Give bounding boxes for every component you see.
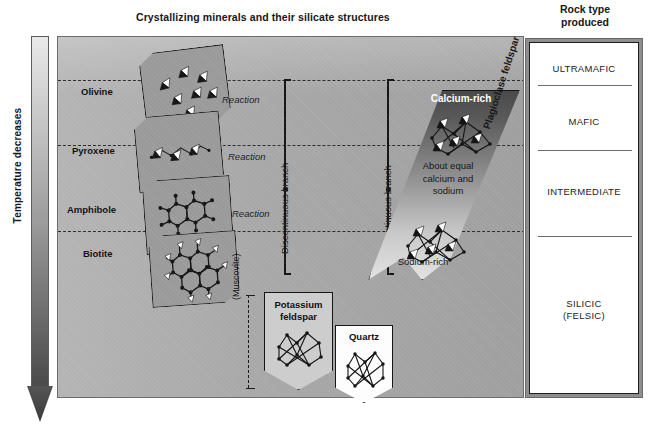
rock-type-heading-line1: Rock type <box>560 3 610 15</box>
mineral-label-muscovite: (Muscovite) <box>231 253 241 300</box>
mineral-label-amphibole: Amphibole <box>67 204 116 215</box>
page-title: Crystallizing minerals and their silicat… <box>136 11 536 23</box>
rock-type-divider-2 <box>538 150 632 151</box>
discontinuous-branch-label: Discontinuous branch <box>279 163 290 254</box>
rock-type-divider-1 <box>538 85 632 86</box>
arrow-down-icon <box>27 386 53 422</box>
rock-type-heading-line2: produced <box>561 16 609 28</box>
plagioclase-zone-equal: About equalcalcium andsodium <box>400 160 496 198</box>
reaction-label-3: Reaction <box>232 208 270 219</box>
silicate-structure-framework-kspar <box>273 325 325 379</box>
temperature-axis <box>27 36 53 422</box>
temperature-boundary-line-1 <box>58 80 524 81</box>
plagioclase-zone-sodium-rich: Sodium-rich <box>375 256 471 267</box>
silicate-structure-framework-sodium <box>400 222 474 278</box>
silicate-structure-sheet <box>149 231 242 309</box>
bracket-cap-bottom-icon <box>246 388 255 389</box>
mineral-label-pyroxene: Pyroxene <box>72 145 115 156</box>
rock-type-intermediate[interactable]: INTERMEDIATE <box>530 186 638 198</box>
silicate-structure-framework-quartz <box>343 348 387 396</box>
mineral-label-potassium-feldspar: Potassiumfeldspar <box>264 299 333 323</box>
mineral-label-olivine: Olivine <box>81 86 113 97</box>
rock-type-heading: Rock type produced <box>530 3 640 29</box>
mineral-label-biotite: Biotite <box>83 248 113 259</box>
rock-type-ultramafic[interactable]: ULTRAMAFIC <box>530 63 638 75</box>
mineral-shape-biotite[interactable] <box>148 230 241 308</box>
mineral-label-quartz: Quartz <box>335 331 393 342</box>
temperature-axis-label: Temperature decreases <box>12 101 23 231</box>
rock-type-panel: ULTRAMAFIC MAFIC INTERMEDIATE SILICIC(FE… <box>529 42 639 394</box>
rock-type-silicic[interactable]: SILICIC(FELSIC) <box>530 298 638 322</box>
rock-type-mafic[interactable]: MAFIC <box>530 116 638 128</box>
reaction-label-1: Reaction <box>222 94 260 105</box>
rock-type-divider-3 <box>538 236 632 237</box>
temperature-arrow-shaft <box>31 36 49 388</box>
reaction-label-2: Reaction <box>228 151 266 162</box>
bracket-cap-top-icon <box>246 295 255 296</box>
muscovite-bracket <box>248 295 255 388</box>
